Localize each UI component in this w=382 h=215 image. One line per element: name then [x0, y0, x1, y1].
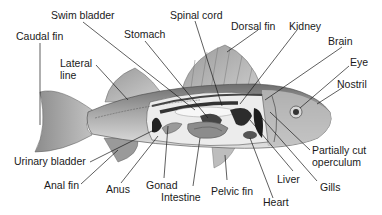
- pelvic-fin-shape: [212, 146, 236, 168]
- label-lateral-line-2: line: [60, 70, 76, 81]
- heart-shape: [243, 131, 257, 139]
- label-brain: Brain: [328, 36, 353, 47]
- fish-anatomy-diagram: Caudal fin Swim bladder Spinal cord Stom…: [0, 0, 382, 215]
- label-heart: Heart: [263, 197, 289, 208]
- label-urinary-bladder: Urinary bladder: [14, 156, 86, 167]
- label-gills: Gills: [320, 182, 340, 193]
- label-kidney: Kidney: [289, 21, 321, 32]
- label-stomach: Stomach: [124, 29, 165, 40]
- label-anal-fin: Anal fin: [44, 180, 79, 191]
- label-lateral-line-1: Lateral: [60, 58, 92, 69]
- label-intestine: Intestine: [161, 192, 201, 203]
- label-nostril: Nostril: [337, 79, 367, 90]
- label-liver: Liver: [277, 174, 300, 185]
- label-partially-cut-operculum-1: Partially cut: [312, 145, 366, 156]
- label-gonad: Gonad: [146, 180, 178, 191]
- label-dorsal-fin: Dorsal fin: [231, 21, 275, 32]
- label-pelvic-fin: Pelvic fin: [211, 186, 253, 197]
- label-partially-cut-operculum-2: operculum: [312, 157, 361, 168]
- label-eye: Eye: [350, 57, 368, 68]
- label-caudal-fin: Caudal fin: [16, 31, 63, 42]
- caudal-fin-shape: [35, 91, 95, 152]
- label-anus: Anus: [106, 184, 130, 195]
- label-spinal-cord: Spinal cord: [170, 10, 223, 21]
- label-swim-bladder: Swim bladder: [51, 10, 115, 21]
